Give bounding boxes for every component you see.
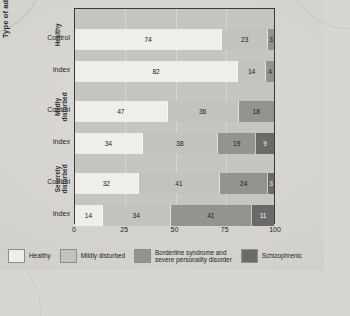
bar-segment-value: 34: [105, 140, 112, 147]
y-axis-row-label: Index: [53, 66, 70, 74]
bar-segment: 19: [218, 133, 256, 154]
bar-segment: 4: [266, 61, 274, 82]
bar-segment-value: 41: [207, 212, 214, 219]
legend-label: Schizophrenic: [262, 252, 302, 259]
y-axis-title: Type of adoptive family: [1, 0, 10, 60]
bar-segment: 74: [75, 29, 222, 50]
bar-segment-value: 36: [199, 108, 206, 115]
legend-swatch: [60, 249, 77, 263]
legend-label: Borderline syndrome and severe personali…: [155, 249, 232, 263]
y-axis-row-label: Index: [53, 210, 70, 218]
bar-segment-value: 41: [175, 180, 182, 187]
bar-segment-value: 19: [233, 140, 240, 147]
bar-segment-value: 9: [263, 140, 267, 147]
legend-item: Schizophrenic: [241, 249, 302, 263]
x-axis-tick-label: 50: [171, 226, 179, 233]
bar-segment: 14: [238, 61, 266, 82]
bar-segment-value: 14: [248, 68, 255, 75]
bar-segment: 32: [75, 173, 139, 194]
bar-segment: 9: [256, 133, 274, 154]
legend-swatch: [134, 249, 151, 263]
bar-segment-value: 3: [269, 36, 273, 43]
bar-segment: 24: [220, 173, 268, 194]
y-axis-row-label: Control: [47, 178, 70, 186]
bar-segment: 47: [75, 101, 168, 122]
bar-segment-value: 4: [268, 68, 272, 75]
chart-legend: HealthyMildly disturbedBorderline syndro…: [8, 246, 320, 266]
bar-segment-value: 11: [260, 212, 267, 219]
bar-segment: 41: [139, 173, 221, 194]
bar-segment: 3: [268, 29, 274, 50]
bar-segment-value: 47: [117, 108, 124, 115]
bar-row: 74233: [75, 29, 274, 50]
bar-row: 473618: [75, 101, 274, 122]
x-axis-tick-label: 25: [120, 226, 128, 233]
legend-item: Borderline syndrome and severe personali…: [134, 249, 232, 263]
bar-segment-value: 23: [241, 36, 248, 43]
bar-row: 3241243: [75, 173, 274, 194]
legend-label: Mildly disturbed: [81, 252, 125, 259]
bar-row: 82144: [75, 61, 274, 82]
bar-row: 14344111: [75, 205, 274, 226]
y-axis-row-label: Index: [53, 138, 70, 146]
bar-segment: 41: [171, 205, 253, 226]
stacked-bars: 74233821444736183438199324124314344111: [75, 9, 274, 223]
x-axis-tick-label: 100: [269, 226, 281, 233]
bar-segment-value: 32: [103, 180, 110, 187]
bar-segment-value: 38: [176, 140, 183, 147]
bar-segment: 34: [103, 205, 171, 226]
legend-swatch: [241, 249, 258, 263]
y-axis-row-label: Control: [47, 34, 70, 42]
bar-segment: 14: [75, 205, 103, 226]
bar-segment: 38: [143, 133, 219, 154]
bar-segment-value: 24: [240, 180, 247, 187]
bar-segment-value: 3: [269, 180, 273, 187]
legend-swatch: [8, 249, 25, 263]
legend-item: Healthy: [8, 249, 51, 263]
bar-row: 3438199: [75, 133, 274, 154]
bar-segment-value: 74: [144, 36, 151, 43]
bar-segment: 36: [168, 101, 239, 122]
bar-segment: 18: [239, 101, 274, 122]
bar-segment-value: 34: [133, 212, 140, 219]
bar-segment: 23: [222, 29, 268, 50]
bar-segment-value: 18: [253, 108, 260, 115]
y-axis-category-labels: ControlIndexControlIndexControlIndex: [14, 0, 70, 232]
x-axis-tick-label: 0: [72, 226, 76, 233]
legend-label: Healthy: [29, 252, 51, 259]
x-axis-tick-labels: 0255075100: [74, 226, 275, 240]
bar-segment: 11: [252, 205, 274, 226]
bar-segment-value: 82: [152, 68, 159, 75]
chart-plot-area: 74233821444736183438199324124314344111: [74, 8, 275, 224]
y-axis-row-label: Control: [47, 106, 70, 114]
bar-segment: 82: [75, 61, 238, 82]
bar-segment-value: 14: [85, 212, 92, 219]
x-axis-tick-label: 75: [221, 226, 229, 233]
legend-item: Mildly disturbed: [60, 249, 125, 263]
bar-segment: 34: [75, 133, 143, 154]
bar-segment: 3: [268, 173, 274, 194]
